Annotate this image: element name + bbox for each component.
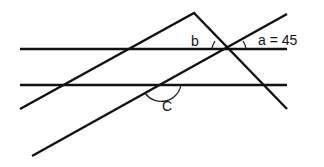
angle-c-label: C [162, 98, 172, 114]
triangle-transversal [20, 13, 287, 109]
angle-diagram: b a = 45 C [0, 0, 324, 167]
angle-a-label: a = 45 [258, 32, 298, 48]
angle-b-label: b [191, 33, 199, 49]
